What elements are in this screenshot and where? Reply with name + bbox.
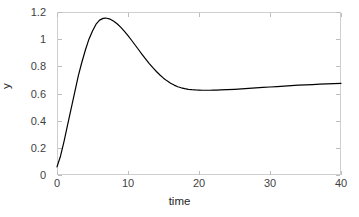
data-series-line — [57, 18, 341, 167]
y-tick-mark-right — [336, 175, 340, 176]
y-axis-label: y — [0, 83, 12, 89]
x-tick-label: 0 — [54, 177, 60, 190]
x-tick-label: 40 — [335, 177, 347, 190]
plot-area — [57, 12, 341, 175]
y-tick-label: 0 — [40, 169, 46, 182]
x-tick-label: 10 — [122, 177, 134, 190]
y-tick-label: 1 — [40, 33, 46, 46]
y-tick-label: 0.8 — [31, 60, 46, 73]
y-tick-label: 1.2 — [31, 6, 46, 19]
chart-figure: 01020304000.20.40.60.811.2 time y — [0, 0, 359, 217]
y-tick-label: 0.6 — [31, 87, 46, 100]
x-tick-label: 20 — [193, 177, 205, 190]
x-axis-label: time — [0, 195, 359, 207]
y-tick-mark — [58, 175, 62, 176]
y-tick-label: 0.4 — [31, 114, 46, 127]
x-tick-mark — [341, 171, 342, 175]
x-tick-mark-top — [341, 13, 342, 17]
y-tick-label: 0.2 — [31, 141, 46, 154]
x-tick-label: 30 — [264, 177, 276, 190]
